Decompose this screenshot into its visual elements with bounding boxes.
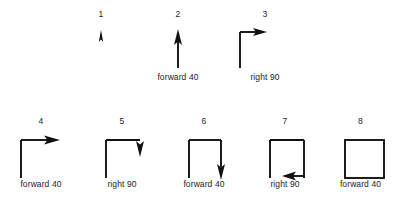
diagram-canvas: 1 2 forward 40 3	[0, 0, 397, 214]
step-2-caption: forward 40	[140, 72, 216, 83]
step-3-caption: right 90	[222, 72, 308, 83]
step-4-figure	[0, 127, 82, 179]
step-4-caption: forward 40	[0, 179, 82, 190]
step-8-number: 8	[324, 116, 397, 126]
step-5: 5 right 90	[82, 107, 162, 214]
step-5-figure	[82, 127, 162, 179]
step-8-figure	[324, 127, 397, 179]
step-2: 2 forward 40	[140, 0, 216, 107]
step-8-caption: forward 40	[324, 179, 397, 190]
step-4-number: 4	[0, 116, 82, 126]
step-8: 8 forward 40	[324, 107, 397, 214]
step-6-figure	[162, 127, 246, 179]
step-6: 6 forward 40	[162, 107, 246, 214]
step-7-number: 7	[246, 116, 324, 126]
step-3-number: 3	[222, 9, 308, 19]
step-7-caption: right 90	[246, 179, 324, 190]
step-6-number: 6	[162, 116, 246, 126]
step-1: 1	[62, 0, 140, 107]
step-6-caption: forward 40	[162, 179, 246, 190]
bottom-row: 4 forward 40 5 right 90	[0, 107, 397, 214]
step-5-number: 5	[82, 116, 162, 126]
step-4: 4 forward 40	[0, 107, 82, 214]
step-2-number: 2	[140, 9, 216, 19]
top-row: 1 2 forward 40 3	[0, 0, 397, 107]
step-3-figure	[222, 20, 308, 72]
step-7: 7 right 90	[246, 107, 324, 214]
step-1-number: 1	[62, 9, 140, 19]
step-2-figure	[140, 20, 216, 72]
step-7-figure	[246, 127, 324, 179]
step-3: 3 right 90	[222, 0, 308, 107]
step-1-figure	[62, 20, 140, 72]
step-5-caption: right 90	[82, 179, 162, 190]
